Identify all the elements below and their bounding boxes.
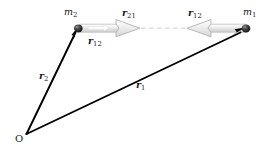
mass-label-m1: m1 [243, 7, 257, 17]
origin-label: O [15, 134, 23, 144]
vector-label-r21: r21 [122, 8, 136, 18]
vector-label-r2: r2 [39, 71, 49, 81]
vector-arrow-r2 [27, 27, 79, 134]
vector-label-r12-lower: r12 [88, 36, 102, 46]
vector-label-r12-upper: r12 [188, 8, 202, 18]
vector-label-r1: r1 [136, 80, 146, 90]
mass-point-m1 [242, 24, 251, 32]
mass-label-m2: m2 [64, 7, 78, 17]
origin-point [26, 133, 28, 135]
mass-point-m2 [74, 24, 83, 32]
vector-diagram-figure: m2 m1 r21 r12 r12 r2 r1 O [0, 0, 271, 151]
